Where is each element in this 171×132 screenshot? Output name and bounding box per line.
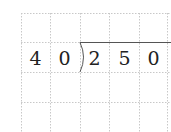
divisor-digit-ones: 0: [50, 49, 79, 68]
dividend-digit-tens: 5: [110, 49, 139, 68]
divisor-digit-tens: 4: [21, 49, 50, 68]
dividend-digit-hundreds: 2: [80, 49, 109, 68]
dividend-digit-ones: 0: [139, 49, 168, 68]
grid-lines: [21, 13, 171, 132]
